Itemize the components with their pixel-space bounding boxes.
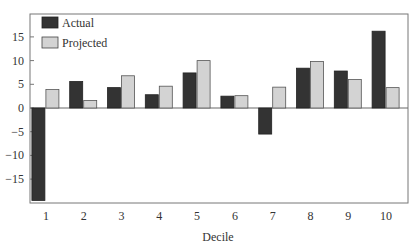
bar-projected-2 xyxy=(84,100,97,108)
bar-projected-6 xyxy=(235,96,248,108)
bar-projected-10 xyxy=(386,88,399,108)
x-tick-label: 9 xyxy=(345,209,351,223)
bar-projected-1 xyxy=(46,90,59,108)
x-tick-label: 4 xyxy=(156,209,162,223)
x-tick-label: 3 xyxy=(119,209,125,223)
y-tick-label: 15 xyxy=(12,30,24,44)
bar-actual-9 xyxy=(334,71,347,108)
bar-projected-5 xyxy=(197,61,210,108)
legend-label-actual: Actual xyxy=(62,16,95,30)
bar-actual-10 xyxy=(372,31,385,108)
bar-actual-3 xyxy=(108,88,121,108)
x-axis-title: Decile xyxy=(202,230,233,244)
legend-label-projected: Projected xyxy=(62,36,107,50)
y-tick-label: 0 xyxy=(18,101,24,115)
legend: Actual Projected xyxy=(42,16,107,50)
bar-projected-7 xyxy=(273,87,286,108)
x-tick-label: 7 xyxy=(270,209,276,223)
bar-actual-1 xyxy=(32,108,45,200)
bar-actual-6 xyxy=(221,96,234,108)
bar-projected-9 xyxy=(348,80,361,108)
bar-actual-4 xyxy=(145,95,158,108)
x-tick-label: 5 xyxy=(194,209,200,223)
x-tick-label: 6 xyxy=(232,209,238,223)
bar-actual-5 xyxy=(183,73,196,108)
legend-swatch-projected xyxy=(42,37,58,48)
bar-actual-7 xyxy=(259,108,272,134)
legend-swatch-actual xyxy=(42,17,58,28)
x-tick-label: 2 xyxy=(81,209,87,223)
chart-svg: 151050−5−10−1512345678910 Actual Project… xyxy=(0,0,412,246)
bar-projected-8 xyxy=(311,62,324,108)
y-tick-label: −5 xyxy=(11,125,24,139)
bar-actual-2 xyxy=(70,81,83,108)
y-tick-label: 5 xyxy=(18,77,24,91)
y-tick-label: −10 xyxy=(5,148,24,162)
x-tick-label: 8 xyxy=(308,209,314,223)
bar-actual-8 xyxy=(297,68,310,108)
bar-chart: 151050−5−10−1512345678910 Actual Project… xyxy=(0,0,412,246)
y-tick-label: −15 xyxy=(5,172,24,186)
y-tick-label: 10 xyxy=(12,54,24,68)
x-tick-label: 10 xyxy=(380,209,392,223)
bar-projected-4 xyxy=(159,86,172,108)
bar-projected-3 xyxy=(122,76,135,108)
x-tick-label: 1 xyxy=(43,209,49,223)
